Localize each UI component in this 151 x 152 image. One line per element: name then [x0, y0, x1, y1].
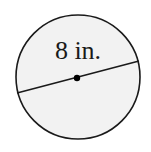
center-point — [74, 75, 80, 81]
diameter-label: 8 in. — [40, 38, 116, 64]
circle-diagram-svg — [0, 0, 151, 152]
circle-diagram: 8 in. — [0, 0, 151, 152]
